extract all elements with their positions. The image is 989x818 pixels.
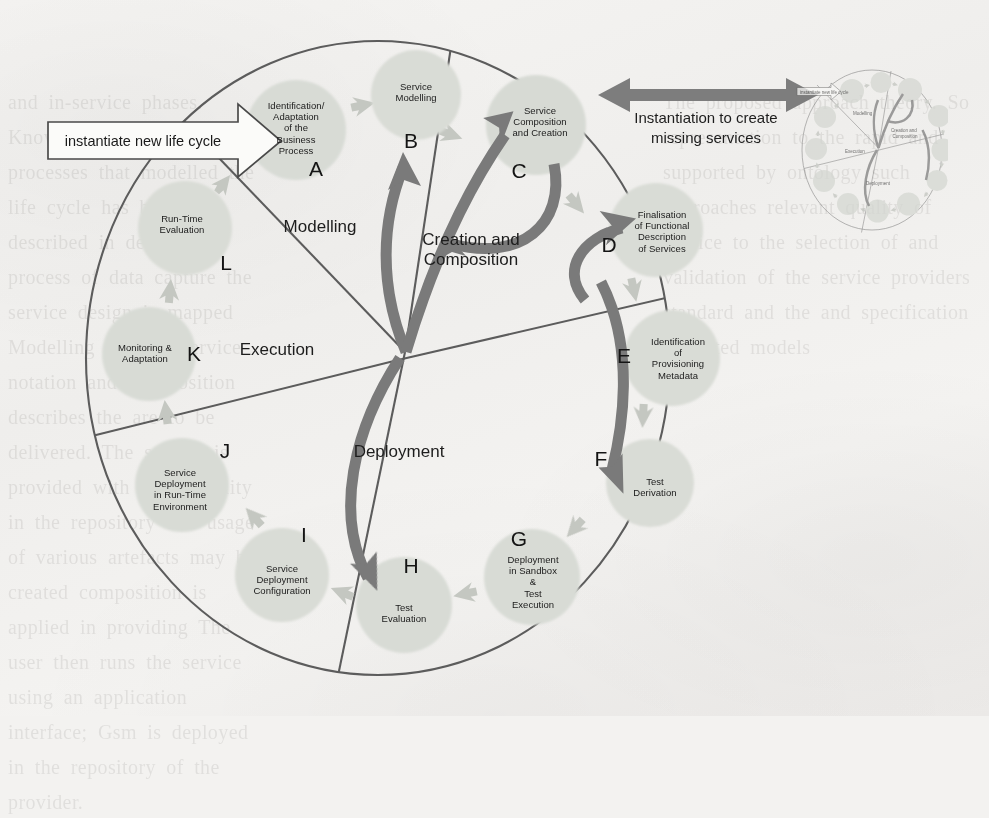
arrow-D-to-F	[601, 282, 623, 470]
arrow-hub-to-H	[351, 358, 400, 578]
entry-tag-arrow[interactable]	[48, 104, 281, 177]
chevron-C-to-D	[561, 189, 592, 220]
chevron-G-to-H	[451, 582, 479, 607]
chevron-D-to-E	[622, 276, 647, 304]
svg-text:Modelling: Modelling	[853, 111, 873, 116]
node-circle-I[interactable]	[235, 528, 329, 622]
node-circle-J[interactable]	[135, 438, 229, 532]
node-circle-G[interactable]	[484, 529, 580, 625]
chevron-F-to-G	[559, 513, 590, 544]
svg-text:Deployment: Deployment	[866, 181, 891, 186]
feedback-arrows	[351, 135, 624, 578]
chevron-J-to-K	[155, 399, 178, 425]
arrowhead-into-B	[388, 152, 421, 190]
svg-text:Execution: Execution	[845, 149, 865, 154]
feedback-banner-arrow	[598, 78, 818, 112]
arrow-hub-to-B	[386, 168, 406, 352]
node-circle-B[interactable]	[371, 50, 461, 140]
node-circle-K[interactable]	[102, 307, 196, 401]
svg-text:Creation and: Creation and	[891, 128, 917, 133]
chevron-E-to-F	[632, 403, 653, 428]
lifecycle-thumbnail[interactable]: instantiate new life cycle Modelling Cre…	[793, 60, 948, 240]
chevron-I-to-J	[238, 501, 269, 532]
chevron-K-to-L	[159, 278, 181, 304]
svg-text:Composition: Composition	[893, 134, 919, 139]
node-circle-L[interactable]	[138, 181, 232, 275]
thumbnail-svg: instantiate new life cycle Modelling Cre…	[793, 60, 948, 240]
arrow-C-to-D	[445, 166, 582, 275]
thumbnail-entry-label: instantiate new life cycle	[800, 90, 849, 95]
node-circle-E[interactable]	[624, 310, 720, 406]
feedback-arrowheads	[345, 102, 640, 591]
